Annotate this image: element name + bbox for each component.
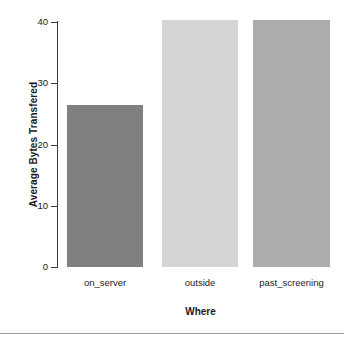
y-axis-tick (51, 267, 57, 268)
y-axis-tick-label: 0 (8, 261, 48, 272)
bar-outside[interactable] (162, 20, 238, 267)
footer-divider (0, 333, 344, 334)
bar-past_screening[interactable] (253, 20, 330, 267)
y-axis-tick-label: 30 (8, 77, 48, 88)
x-axis-tick-label: past_screening (233, 277, 344, 288)
bar-chart: Average Bytes Transfered 010203040 on_se… (0, 0, 344, 339)
bar-on_server[interactable] (67, 105, 143, 267)
plot-area (57, 10, 344, 267)
y-axis-tick-label: 40 (8, 16, 48, 27)
y-axis-tick-label: 20 (8, 139, 48, 150)
y-axis-tick-label: 10 (8, 200, 48, 211)
x-axis-title: Where (57, 306, 344, 317)
